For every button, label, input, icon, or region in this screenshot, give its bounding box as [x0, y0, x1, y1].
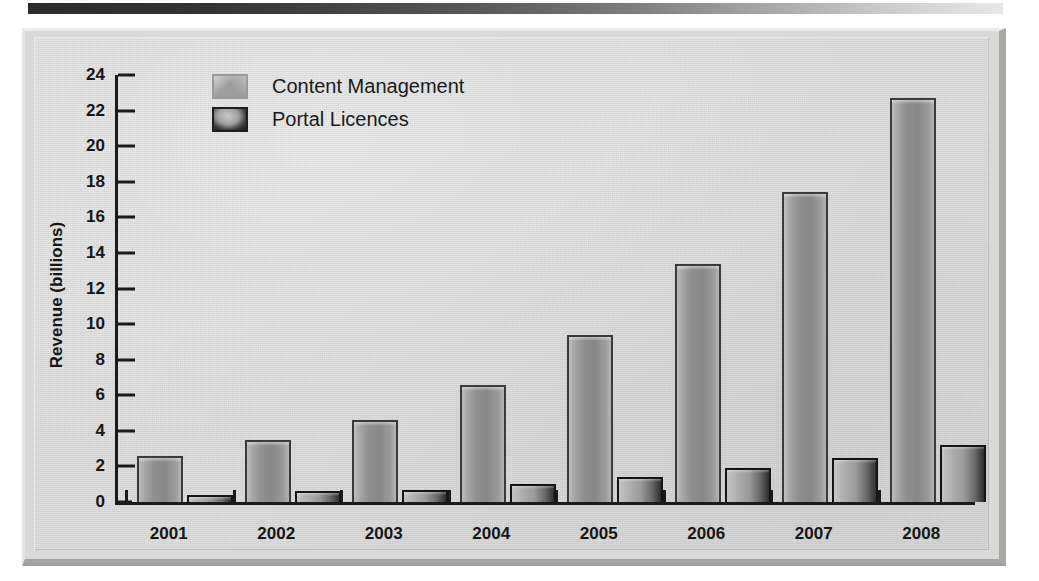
- y-tick-mark: [118, 429, 135, 432]
- bar-content-management: [567, 335, 613, 502]
- x-tick-label: 2008: [876, 524, 966, 544]
- y-tick-label: 14: [65, 243, 105, 263]
- legend-swatch-portal-licences: [212, 107, 248, 132]
- y-tick-mark: [118, 74, 135, 77]
- y-tick-label: 0: [65, 492, 105, 512]
- x-tick-label: 2004: [446, 524, 536, 544]
- bar-portal-licences: [832, 458, 878, 502]
- bar-portal-licences: [402, 490, 448, 502]
- legend-item-content-management: Content Management: [212, 70, 464, 103]
- y-tick-mark: [118, 465, 135, 468]
- bar-content-management: [782, 192, 828, 502]
- bar-portal-licences: [725, 468, 771, 502]
- y-tick-label: 6: [65, 385, 105, 405]
- x-tick-label: 2003: [339, 524, 429, 544]
- x-tick-mark: [125, 490, 128, 502]
- x-tick-label: 2001: [124, 524, 214, 544]
- x-tick-label: 2006: [661, 524, 751, 544]
- y-tick-label: 10: [65, 314, 105, 334]
- bar-portal-licences: [510, 484, 556, 502]
- bar-content-management: [460, 385, 506, 502]
- bar-portal-licences: [940, 445, 986, 502]
- bar-portal-licences: [187, 495, 233, 502]
- legend-item-portal-licences: Portal Licences: [212, 103, 464, 136]
- y-tick-label: 4: [65, 421, 105, 441]
- bar-portal-licences: [295, 491, 341, 502]
- y-axis-title: Revenue (billions): [47, 175, 67, 415]
- y-tick-mark: [118, 394, 135, 397]
- bar-content-management: [137, 456, 183, 502]
- bar-content-management: [675, 264, 721, 502]
- y-tick-mark: [118, 145, 135, 148]
- y-tick-mark: [118, 180, 135, 183]
- y-tick-mark: [118, 251, 135, 254]
- y-tick-label: 18: [65, 172, 105, 192]
- y-tick-label: 16: [65, 207, 105, 227]
- bar-content-management: [890, 98, 936, 502]
- y-tick-mark: [118, 323, 135, 326]
- chart-legend: Content Management Portal Licences: [212, 70, 464, 136]
- bar-content-management: [245, 440, 291, 502]
- y-tick-label: 12: [65, 279, 105, 299]
- y-axis-line: [115, 75, 118, 505]
- y-tick-mark: [118, 216, 135, 219]
- y-tick-label: 2: [65, 456, 105, 476]
- y-tick-label: 8: [65, 350, 105, 370]
- bar-chart: Revenue (billions) 024681012141618202224…: [0, 0, 1039, 581]
- legend-label-content-management: Content Management: [272, 75, 464, 98]
- y-tick-mark: [118, 287, 135, 290]
- y-tick-mark: [118, 109, 135, 112]
- y-tick-mark: [118, 358, 135, 361]
- x-tick-label: 2007: [769, 524, 859, 544]
- bar-content-management: [352, 420, 398, 502]
- bar-portal-licences: [617, 477, 663, 502]
- y-tick-label: 22: [65, 101, 105, 121]
- legend-swatch-content-management: [212, 74, 248, 99]
- x-axis-line: [115, 502, 975, 505]
- y-tick-label: 20: [65, 136, 105, 156]
- x-tick-label: 2002: [231, 524, 321, 544]
- legend-label-portal-licences: Portal Licences: [272, 108, 409, 131]
- y-tick-label: 24: [65, 65, 105, 85]
- x-tick-label: 2005: [554, 524, 644, 544]
